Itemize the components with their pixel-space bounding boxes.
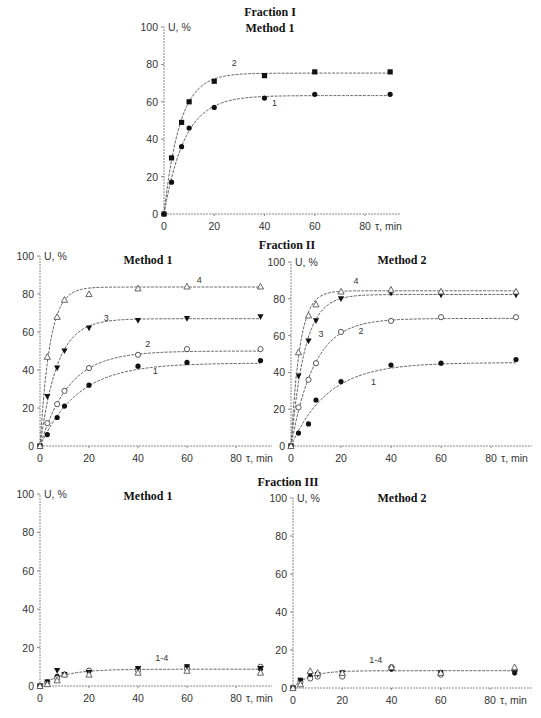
x-tick-label: 0 bbox=[37, 692, 43, 704]
panel-title: Method 2 bbox=[378, 253, 427, 267]
filled-down-triangle-marker bbox=[44, 394, 50, 400]
series-3: 3 bbox=[37, 313, 264, 450]
filled-circle-marker bbox=[184, 360, 189, 365]
filled-circle-marker bbox=[338, 379, 343, 384]
x-axis-label: τ, min bbox=[375, 220, 402, 232]
filled-circle-marker bbox=[187, 125, 192, 130]
fit-curve bbox=[40, 287, 261, 446]
y-tick-label: 80 bbox=[275, 530, 287, 542]
x-axis-label: τ, min bbox=[246, 692, 273, 704]
open-triangle-marker bbox=[295, 349, 301, 355]
filled-square-marker bbox=[212, 79, 217, 84]
series-1: 1 bbox=[37, 358, 263, 449]
x-tick-label: 60 bbox=[181, 452, 193, 464]
fit-curve bbox=[291, 295, 516, 447]
filled-circle-marker bbox=[169, 180, 174, 185]
y-axis-label: U, % bbox=[168, 21, 191, 33]
curve-label: 1 bbox=[371, 377, 376, 387]
y-tick-label: 0 bbox=[152, 208, 158, 220]
y-tick-label: 20 bbox=[22, 402, 34, 414]
series-4 bbox=[290, 664, 518, 691]
open-triangle-marker bbox=[184, 283, 190, 289]
filled-circle-marker bbox=[62, 404, 67, 409]
filled-square-marker bbox=[187, 99, 192, 104]
y-tick-label: 0 bbox=[28, 680, 34, 692]
series-1 bbox=[290, 666, 517, 690]
open-triangle-marker bbox=[512, 664, 518, 670]
filled-circle-marker bbox=[513, 357, 518, 362]
y-tick-label: 40 bbox=[275, 606, 287, 618]
y-tick-label: 80 bbox=[273, 293, 285, 305]
panel-title: Method 1 bbox=[124, 253, 173, 267]
fit-curve bbox=[40, 363, 261, 446]
curve-label: 4 bbox=[197, 275, 202, 285]
series-1 bbox=[37, 664, 263, 688]
y-tick-label: 20 bbox=[273, 403, 285, 415]
x-tick-label: 80 bbox=[359, 220, 371, 232]
filled-circle-marker bbox=[86, 383, 91, 388]
fit-curve bbox=[291, 291, 516, 446]
x-tick-label: 40 bbox=[259, 220, 271, 232]
open-circle-marker bbox=[86, 366, 91, 371]
y-tick-label: 0 bbox=[28, 440, 34, 452]
x-tick-label: 20 bbox=[83, 452, 95, 464]
x-tick-label: 60 bbox=[181, 692, 193, 704]
filled-circle-marker bbox=[179, 144, 184, 149]
open-triangle-marker bbox=[305, 312, 311, 318]
filled-circle-marker bbox=[313, 397, 318, 402]
series-2 bbox=[290, 665, 517, 691]
x-tick-label: 0 bbox=[290, 694, 296, 706]
open-circle-marker bbox=[258, 347, 263, 352]
y-tick-label: 60 bbox=[22, 565, 34, 577]
series-2 bbox=[37, 664, 263, 688]
x-tick-label: 40 bbox=[386, 694, 398, 706]
filled-down-triangle-marker bbox=[135, 318, 141, 324]
chart-panel-f1m1: 020406080100020406080τ, minU, %Method 11… bbox=[140, 21, 402, 232]
series-3: 3 bbox=[288, 291, 519, 449]
x-tick-label: 0 bbox=[288, 452, 294, 464]
filled-down-triangle-marker bbox=[313, 318, 319, 324]
x-axis-label: τ, min bbox=[500, 694, 527, 706]
y-tick-label: 20 bbox=[146, 171, 158, 183]
series-4 bbox=[37, 668, 264, 689]
open-circle-marker bbox=[184, 347, 189, 352]
series-3 bbox=[290, 666, 518, 691]
panel-title: Method 2 bbox=[378, 491, 427, 505]
filled-circle-marker bbox=[55, 415, 60, 420]
y-axis-label: U, % bbox=[295, 256, 318, 268]
x-axis-label: τ, min bbox=[501, 452, 528, 464]
open-circle-marker bbox=[135, 352, 140, 357]
open-circle-marker bbox=[438, 315, 443, 320]
y-tick-label: 80 bbox=[22, 526, 34, 538]
y-tick-label: 80 bbox=[146, 58, 158, 70]
y-tick-label: 40 bbox=[22, 364, 34, 376]
filled-down-triangle-marker bbox=[305, 339, 311, 345]
filled-circle-marker bbox=[262, 95, 267, 100]
curve-label: 4 bbox=[354, 276, 359, 286]
filled-circle-marker bbox=[438, 361, 443, 366]
series-2: 2 bbox=[161, 58, 392, 216]
x-tick-label: 20 bbox=[83, 692, 95, 704]
chart-panel-f2m1: 020406080100020406080τ, minU, %Method 11… bbox=[16, 250, 273, 464]
open-circle-marker bbox=[513, 315, 518, 320]
y-axis-label: U, % bbox=[44, 488, 67, 500]
x-tick-label: 60 bbox=[435, 452, 447, 464]
x-axis-label: τ, min bbox=[246, 452, 273, 464]
fit-curve bbox=[164, 96, 390, 214]
filled-circle-marker bbox=[212, 105, 217, 110]
fit-curve bbox=[40, 319, 261, 446]
x-tick-label: 20 bbox=[336, 694, 348, 706]
y-tick-label: 0 bbox=[279, 440, 285, 452]
curve-label: 1 bbox=[272, 98, 277, 108]
y-tick-label: 100 bbox=[140, 21, 158, 33]
curve-label: 1-4 bbox=[155, 653, 168, 663]
filled-square-marker bbox=[312, 69, 317, 74]
x-tick-label: 0 bbox=[161, 220, 167, 232]
x-tick-label: 80 bbox=[484, 694, 496, 706]
open-triangle-marker bbox=[86, 291, 92, 297]
curve-label: 2 bbox=[232, 58, 237, 68]
curve-label: 3 bbox=[319, 329, 324, 339]
open-triangle-marker bbox=[388, 287, 394, 293]
open-circle-marker bbox=[306, 377, 311, 382]
open-circle-marker bbox=[388, 318, 393, 323]
